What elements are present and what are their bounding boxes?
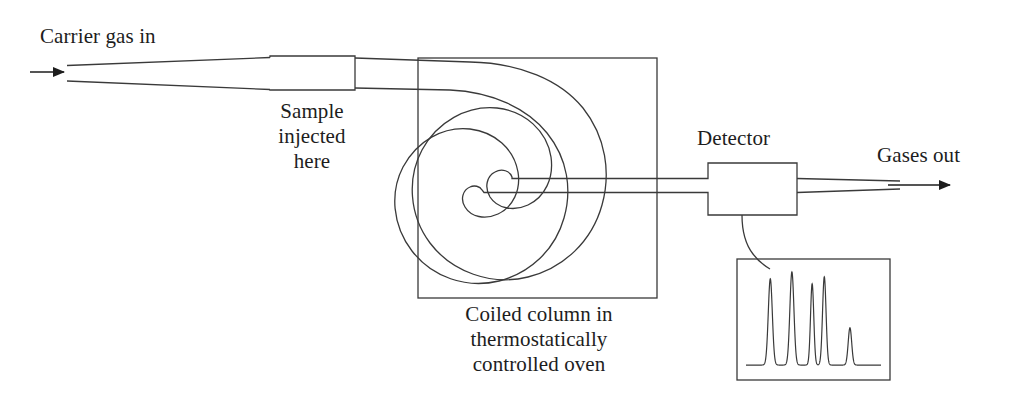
sample-injection-port bbox=[270, 56, 355, 90]
chromatogram-trace bbox=[746, 272, 881, 365]
inlet-tube bbox=[67, 58, 270, 90]
label-oven-line-3: controlled oven bbox=[408, 352, 670, 377]
detector-outlet-tube bbox=[797, 179, 900, 193]
detector-unit bbox=[700, 163, 797, 215]
label-oven-line-2: thermostatically bbox=[408, 327, 670, 352]
detector-signal-wire bbox=[742, 215, 770, 269]
label-sample-line-3: here bbox=[252, 149, 372, 174]
label-gases-out: Gases out bbox=[877, 143, 960, 168]
gas-chromatograph-diagram: Carrier gas in Sample injected here Coil… bbox=[0, 0, 1025, 415]
label-carrier-gas-in: Carrier gas in bbox=[40, 24, 156, 49]
chromatogram-readout bbox=[737, 259, 890, 380]
label-sample-line-2: injected bbox=[252, 124, 372, 149]
injector-to-oven-tube bbox=[355, 58, 470, 90]
label-oven-line-1: Coiled column in bbox=[408, 302, 670, 327]
label-sample-injected-here: Sample injected here bbox=[252, 99, 372, 173]
label-detector: Detector bbox=[697, 126, 770, 151]
label-coiled-column-oven: Coiled column in thermostatically contro… bbox=[408, 302, 670, 376]
coiled-capillary-column bbox=[395, 62, 700, 283]
label-sample-line-1: Sample bbox=[252, 99, 372, 124]
